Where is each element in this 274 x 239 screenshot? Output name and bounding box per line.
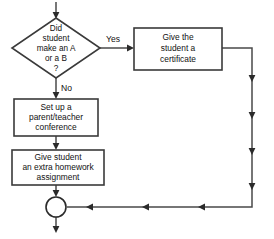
arrowhead-return-down-4 — [249, 183, 256, 190]
homework-text-line-1: Give student — [34, 152, 82, 162]
decision-text-line-1: Did — [50, 24, 63, 33]
certificate-text-line-1: Give the — [162, 32, 194, 42]
arrowhead-return-down-2 — [249, 112, 256, 119]
homework-text-line-3: assignment — [37, 172, 81, 182]
arrowhead-return-left-2 — [142, 204, 149, 211]
arrowhead-return-down-1 — [249, 75, 256, 82]
certificate-text-line-3: certificate — [160, 54, 196, 64]
arrowhead-decision-to-certificate — [127, 45, 134, 52]
arrowhead-homework-to-merge — [53, 190, 60, 197]
decision-text-line-2: student — [43, 34, 71, 43]
conference-text-line-3: conference — [35, 122, 77, 132]
decision-text-line-5: ? — [54, 64, 59, 73]
certificate-text-line-2: student a — [161, 43, 196, 53]
conference-text-line-2: parent/teacher — [29, 112, 83, 122]
conference-text-line-1: Set up a — [40, 102, 72, 112]
decision-text-line-4: or a B — [45, 54, 67, 63]
arrowhead-return-left-3 — [86, 204, 93, 211]
arrowhead-decision-to-conference — [53, 92, 60, 99]
arrowhead-conference-to-homework — [53, 143, 60, 150]
arrowhead-merge-exit — [53, 226, 60, 233]
edge-label-no: No — [61, 83, 72, 93]
arrowhead-return-down-3 — [249, 148, 256, 155]
homework-text-line-2: an extra homework — [22, 162, 94, 172]
arrowhead-return-left-1 — [198, 204, 205, 211]
flowchart-canvas: Did student make an A or a B ? Give the … — [0, 0, 274, 239]
edge-label-yes: Yes — [106, 34, 120, 44]
merge-connector-circle[interactable] — [46, 197, 66, 217]
decision-text-line-3: make an A — [37, 44, 76, 53]
flowchart-svg: Did student make an A or a B ? Give the … — [0, 0, 274, 239]
